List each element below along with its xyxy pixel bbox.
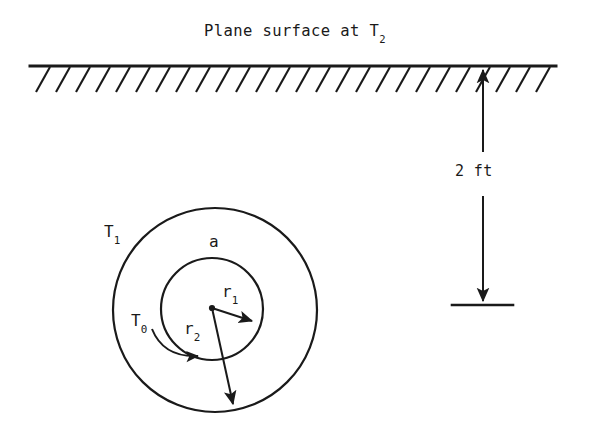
label-t0-subscript: 0: [141, 323, 148, 336]
label-r2-base: r: [184, 319, 194, 338]
label-t1-subscript: 1: [114, 234, 121, 247]
plane-surface-group: [30, 66, 556, 92]
label-t1-base: T: [104, 222, 114, 241]
label-t1: T1: [104, 224, 120, 240]
depth-dimension-group: [452, 70, 513, 305]
label-r1: r1: [222, 284, 238, 300]
title-text: Plane surface at T: [204, 22, 379, 40]
label-r2-subscript: 2: [194, 331, 201, 344]
label-r1-subscript: 1: [232, 294, 239, 307]
page-title: Plane surface at T2: [0, 24, 590, 40]
label-a: a: [209, 234, 219, 250]
surface-hatching: [36, 67, 550, 92]
buried-cylinder-diagram: [0, 0, 590, 434]
title-subscript: 2: [379, 33, 386, 45]
label-t0-base: T: [131, 311, 141, 330]
r1-radius-arrow: [212, 308, 252, 321]
depth-dimension-label: 2 ft: [455, 164, 493, 179]
label-a-base: a: [209, 232, 219, 251]
diagram-canvas: Plane surface at T2 2 ft T1 a r1 T0 r2: [0, 0, 590, 434]
label-r2: r2: [184, 321, 200, 337]
label-t0: T0: [131, 313, 147, 329]
label-r1-base: r: [222, 282, 232, 301]
